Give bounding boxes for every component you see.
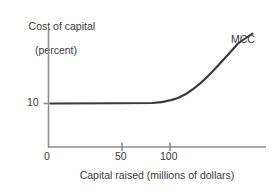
y-tick-label-10: 10 <box>27 96 39 108</box>
x-axis-title: Capital raised (millions of dollars) <box>48 169 266 181</box>
chart-figure: Cost of capital (percent) 10 0 50 100 MC… <box>0 0 276 189</box>
plot-area <box>0 0 276 189</box>
x-tick-label-100: 100 <box>160 150 178 162</box>
mcc-curve-label: MCC <box>231 33 255 45</box>
mcc-curve <box>51 34 253 104</box>
x-tick-label-0: 0 <box>44 150 50 162</box>
x-tick-label-50: 50 <box>115 150 127 162</box>
